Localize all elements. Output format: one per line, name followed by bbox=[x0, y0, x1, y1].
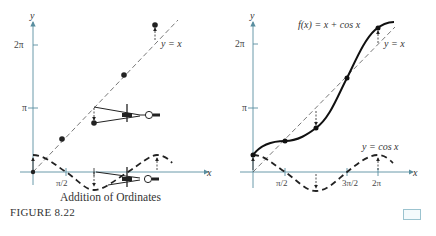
right-graph: y x 2π π π/2 3π/2 2π y = x y = cos x f(x… bbox=[235, 10, 418, 191]
left-tick-2pi-label: 2π bbox=[14, 40, 24, 50]
left-point-origin bbox=[31, 170, 35, 174]
right-point-4 bbox=[376, 26, 381, 31]
corner-box[interactable] bbox=[403, 209, 421, 220]
left-line-yx-label: y = x bbox=[160, 38, 182, 49]
left-point-1 bbox=[59, 136, 65, 142]
left-tick-pi-label: π bbox=[22, 103, 27, 113]
right-fx-curve bbox=[253, 22, 394, 155]
left-graph: y x 2π π π/2 y = x bbox=[14, 10, 212, 190]
right-line-yx-label: y = x bbox=[383, 38, 405, 49]
right-tick-2pi-label: 2π bbox=[235, 39, 245, 49]
right-point-0 bbox=[251, 153, 256, 158]
left-tick-pi2-label: π/2 bbox=[56, 178, 68, 188]
left-point-4 bbox=[152, 22, 158, 28]
right-tick-2pi-x-label: 2π bbox=[372, 178, 382, 188]
right-point-2 bbox=[314, 126, 319, 131]
right-x-axis-label: x bbox=[412, 167, 418, 178]
right-fx-label: f(x) = x + cos x bbox=[298, 19, 361, 31]
left-y-axis-label: y bbox=[29, 10, 35, 21]
right-y-axis-label: y bbox=[249, 10, 255, 21]
compass-icon-upper bbox=[94, 104, 160, 123]
compass-icon-lower bbox=[96, 167, 159, 187]
left-x-axis-label: x bbox=[206, 167, 212, 178]
left-caption: Addition of Ordinates bbox=[60, 191, 161, 203]
right-point-3 bbox=[345, 76, 350, 81]
right-cos-label: y = cos x bbox=[361, 141, 399, 152]
right-tick-3pi2-label: 3π/2 bbox=[342, 178, 358, 188]
right-tick-pi-label: π bbox=[242, 103, 247, 113]
left-point-3 bbox=[121, 72, 127, 78]
figure-label: FIGURE 8.22 bbox=[10, 206, 75, 218]
left-line-y-equals-x bbox=[33, 20, 178, 172]
right-point-1 bbox=[283, 139, 288, 144]
right-tick-pi2-label: π/2 bbox=[276, 178, 288, 188]
